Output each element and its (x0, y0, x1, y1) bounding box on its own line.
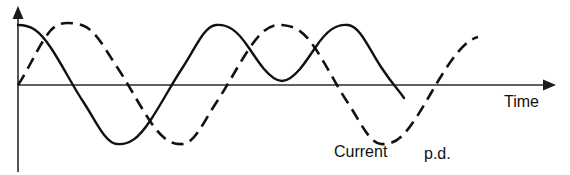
x-axis-label: Time (504, 94, 539, 110)
legend-label-current: Current (334, 144, 387, 160)
arrow-right-icon (543, 80, 556, 91)
arrow-up-icon (13, 6, 24, 19)
y-axis (13, 6, 24, 172)
pd-waveform-dashed (18, 23, 478, 144)
legend-label-pd: p.d. (424, 146, 451, 162)
waveform-plot (0, 0, 570, 175)
waveform-figure: Time Current p.d. (0, 0, 570, 175)
